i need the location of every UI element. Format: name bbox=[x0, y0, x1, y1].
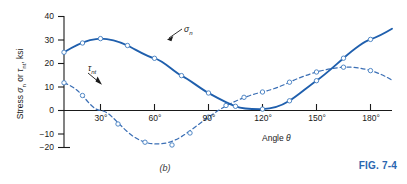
series-label-sigma-n: σn bbox=[184, 24, 193, 36]
stress-vs-angle-chart bbox=[0, 0, 407, 184]
tau-nt-data-markers bbox=[62, 65, 373, 147]
panel-caption: (b) bbox=[0, 163, 330, 173]
figure-7-4: 40 30 20 10 0 −10 −20 30° 60° 90° 120° 1… bbox=[0, 0, 407, 184]
tau-nt-leader-arrow bbox=[88, 73, 102, 85]
y-tick-label-40: 40 bbox=[24, 12, 54, 21]
x-axis-title: Angle θ bbox=[262, 133, 291, 143]
figure-number: FIG. 7-4 bbox=[359, 160, 397, 171]
x-tick-label-30: 30° bbox=[89, 114, 113, 123]
y-axis-title: Stress σn or τnt, ksi bbox=[15, 29, 27, 139]
y-tick-label-20: 20 bbox=[24, 59, 54, 68]
y-tick-label-0: 0 bbox=[24, 106, 54, 115]
x-tick-label-150: 150° bbox=[303, 114, 331, 123]
x-tick-label-180: 180° bbox=[357, 114, 385, 123]
y-tick-label-10: 10 bbox=[24, 83, 54, 92]
x-tick-label-120: 120° bbox=[249, 114, 277, 123]
y-tick-label-30: 30 bbox=[24, 36, 54, 45]
x-tick-label-60: 60° bbox=[143, 114, 167, 123]
sigma-n-leader-arrow bbox=[167, 29, 182, 41]
series-label-tau-nt: τnt bbox=[88, 63, 96, 75]
y-tick-label-minus-20: −20 bbox=[20, 143, 54, 152]
x-tick-label-90: 90° bbox=[197, 114, 221, 123]
